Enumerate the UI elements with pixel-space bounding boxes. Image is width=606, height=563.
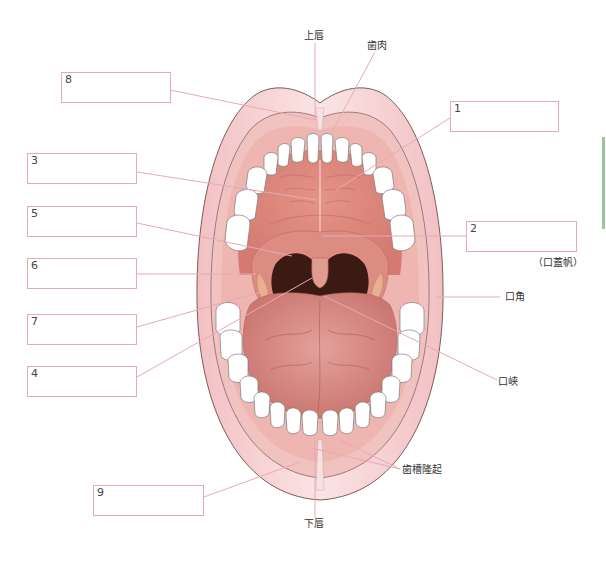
box-number: 1 [454, 103, 461, 115]
box-number: 2 [470, 223, 477, 235]
answer-box-8[interactable]: 8 [61, 72, 171, 103]
box-number: 9 [97, 487, 104, 499]
answer-box-4[interactable]: 4 [27, 366, 137, 397]
label-fauces: 口峡 [498, 376, 518, 388]
answer-box-1[interactable]: 1 [450, 101, 559, 132]
answer-box-5[interactable]: 5 [27, 206, 137, 237]
answer-box-7[interactable]: 7 [27, 314, 137, 345]
box-number: 4 [31, 368, 38, 380]
box-number: 3 [31, 155, 38, 167]
box-number: 6 [31, 260, 38, 272]
answer-box-6[interactable]: 6 [27, 258, 137, 289]
label-lower-lip: 下唇 [304, 518, 324, 530]
box-number: 5 [31, 208, 38, 220]
answer-box-9[interactable]: 9 [93, 485, 204, 516]
answer-box-3[interactable]: 3 [27, 153, 137, 184]
label-gingiva: 歯肉 [367, 40, 387, 52]
label-alveolar-ridge: 歯槽隆起 [402, 464, 442, 476]
box-number: 7 [31, 316, 38, 328]
label-mouth-corner: 口角 [505, 291, 525, 303]
answer-box-2[interactable]: 2 [466, 221, 577, 252]
label-upper-lip: 上唇 [304, 30, 324, 42]
box-number: 8 [65, 74, 72, 86]
label-soft-palate-hint: （口蓋帆） [533, 257, 583, 269]
page-edge-marker [602, 137, 605, 229]
